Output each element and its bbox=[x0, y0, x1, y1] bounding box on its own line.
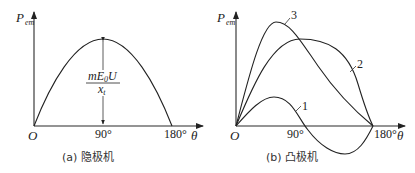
caption-a: (a) 隐极机 bbox=[62, 150, 114, 164]
tick-180: 180° bbox=[164, 127, 187, 141]
figure: P em O 90° 180° θ mE0U xt (a) 隐极机 bbox=[0, 0, 415, 173]
curve-label-1: 1 bbox=[302, 99, 308, 113]
tick-90: 90° bbox=[95, 127, 112, 141]
y-axis-label: P bbox=[15, 10, 24, 25]
x-axis-label: θ bbox=[397, 128, 404, 143]
curve-label-3: 3 bbox=[291, 8, 297, 22]
origin-label: O bbox=[28, 128, 38, 143]
tick-90: 90° bbox=[287, 127, 304, 141]
y-axis-label-sub: em bbox=[25, 18, 35, 27]
origin-label: O bbox=[230, 128, 240, 143]
chart-salient: 3 2 1 P em O 90° 180° θ (b) 凸极机 bbox=[216, 8, 405, 164]
x-axis-label: θ bbox=[191, 128, 198, 143]
chart-non-salient: P em O 90° 180° θ mE0U xt (a) 隐极机 bbox=[15, 10, 203, 164]
caption-b: (b) 凸极机 bbox=[266, 150, 318, 164]
leader-1 bbox=[295, 106, 301, 112]
curve-label-2: 2 bbox=[357, 57, 363, 71]
leader-3 bbox=[285, 18, 290, 24]
amplitude-formula: mE0U xt bbox=[86, 69, 120, 97]
y-axis-label: P bbox=[216, 10, 225, 25]
tick-180: 180° bbox=[374, 127, 397, 141]
y-axis-label-sub: em bbox=[226, 18, 236, 27]
